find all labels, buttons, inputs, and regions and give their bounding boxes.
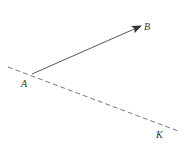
line-label-k: K	[155, 129, 164, 140]
vector-ab-arrow	[32, 26, 141, 74]
point-label-b: B	[144, 21, 150, 32]
point-label-a: A	[20, 78, 28, 89]
vector-diagram: A B K	[0, 0, 189, 149]
dashed-line-ak	[8, 67, 178, 131]
